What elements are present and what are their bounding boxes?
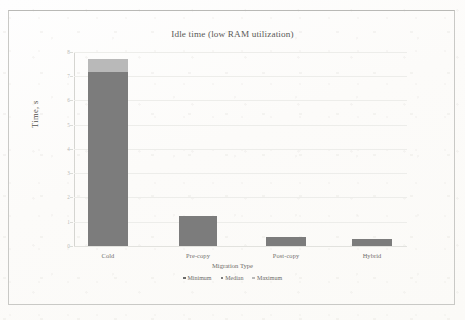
y-tick-label-3: 3	[60, 170, 70, 176]
chart-legend: Minimum Median Maximum	[0, 275, 465, 281]
y-tick-7	[70, 76, 73, 77]
legend-label-median: Median	[225, 275, 243, 281]
x-tick-label-cold: Cold	[73, 252, 143, 259]
legend-item-maximum: Maximum	[252, 275, 282, 281]
gridline-8	[74, 52, 407, 53]
bar-cold	[88, 59, 128, 246]
legend-swatch-minimum	[183, 277, 186, 280]
bar-cold-segment-median	[88, 72, 128, 246]
bar-hybrid	[352, 239, 392, 246]
y-tick-8	[70, 52, 73, 53]
legend-swatch-maximum	[252, 277, 255, 280]
y-tick-label-0: 0	[60, 243, 70, 249]
x-tick-label-pre-copy: Pre-copy	[163, 252, 233, 259]
bar-post-copy-segment-median	[266, 237, 306, 246]
y-tick-0	[70, 246, 73, 247]
chart-title: Idle time (low RAM utilization)	[0, 29, 465, 39]
y-tick-5	[70, 125, 73, 126]
x-tick-label-hybrid: Hybrid	[337, 252, 407, 259]
y-tick-label-5: 5	[60, 122, 70, 128]
y-tick-label-1: 1	[60, 219, 70, 225]
legend-item-median: Median	[221, 275, 244, 281]
legend-label-maximum: Maximum	[257, 275, 282, 281]
legend-swatch-median	[221, 277, 224, 280]
bar-post-copy	[266, 237, 306, 246]
y-tick-1	[70, 222, 73, 223]
x-tick-label-post-copy: Post-copy	[251, 252, 321, 259]
gridline-0-baseline	[74, 246, 407, 247]
y-tick-label-6: 6	[60, 97, 70, 103]
bar-pre-copy-segment-median	[179, 216, 217, 246]
bar-pre-copy	[179, 216, 217, 246]
y-tick-4	[70, 149, 73, 150]
y-tick-label-2: 2	[60, 194, 70, 200]
x-axis-title: Migration Type	[0, 262, 465, 269]
legend-item-minimum: Minimum	[183, 275, 212, 281]
legend-label-minimum: Minimum	[188, 275, 212, 281]
y-tick-3	[70, 173, 73, 174]
y-tick-2	[70, 197, 73, 198]
y-tick-6	[70, 100, 73, 101]
y-tick-label-8: 8	[60, 49, 70, 55]
bar-cold-segment-maximum	[88, 59, 128, 72]
y-tick-label-7: 7	[60, 73, 70, 79]
bar-hybrid-segment-median	[352, 239, 392, 246]
y-tick-label-4: 4	[60, 146, 70, 152]
y-axis-title: Time, s	[30, 68, 40, 128]
bar-chart: Idle time (low RAM utilization) Time, s …	[0, 0, 465, 320]
